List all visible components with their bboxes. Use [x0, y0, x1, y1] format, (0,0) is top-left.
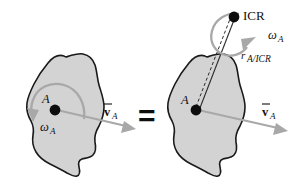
icr-label: ICR	[243, 8, 265, 23]
rigid-body-outline-right	[168, 54, 245, 177]
velocity-symbol-left: v	[104, 105, 111, 119]
point-a-label-left: A	[41, 92, 50, 106]
radius-subscript-right: A/ICR	[246, 54, 271, 64]
icr-equivalence-diagram: A ω A v A =	[0, 0, 300, 191]
point-a-marker-right	[191, 105, 202, 116]
right-panel-group: A ICR ω A r A/ICR v A	[168, 8, 288, 176]
radius-label-right: r A/ICR	[241, 49, 271, 64]
velocity-arrowhead-right	[273, 123, 288, 135]
rigid-body-outline-left	[27, 54, 104, 177]
icr-marker	[229, 12, 240, 23]
velocity-subscript-right: A	[269, 111, 276, 121]
left-panel-group: A ω A v A	[27, 54, 136, 177]
point-a-marker-left	[50, 105, 61, 116]
omega-subscript-right: A	[277, 34, 284, 44]
velocity-subscript-left: A	[111, 111, 118, 121]
angular-velocity-label-right: ω A	[268, 28, 284, 44]
velocity-symbol-right: v	[262, 105, 269, 119]
equals-sign: =	[138, 99, 156, 132]
velocity-label-right: v A	[262, 104, 276, 121]
omega-symbol-left: ω	[40, 120, 49, 134]
point-a-label-right: A	[180, 93, 189, 107]
velocity-label-left: v A	[104, 104, 118, 121]
velocity-arrowhead-left	[121, 121, 136, 133]
radius-symbol-right: r	[241, 49, 246, 61]
figure-container: A ω A v A =	[0, 0, 300, 191]
omega-symbol-right: ω	[268, 28, 277, 42]
omega-subscript-left: A	[49, 126, 56, 136]
